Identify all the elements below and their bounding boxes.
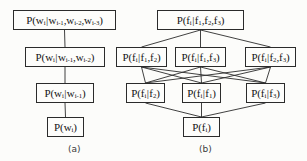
node-p-fi: P(fi)	[183, 117, 220, 137]
node-p-fi-given-f2: P(fi|f2)	[126, 83, 165, 103]
node-p-fi-given-f1-f3: P(fi|f1,f3)	[175, 47, 226, 67]
panel-caption-a: (a)	[68, 144, 81, 154]
node-p-fi-given-f1-f2: P(fi|f1,f2)	[116, 47, 167, 67]
edge-b1-to-b4	[142, 67, 146, 83]
panel-caption-b: (b)	[199, 144, 212, 154]
edge-b4-to-b7	[146, 103, 202, 117]
node-p-wi-given-wi1-wi2-wi3: P(wi|wi‑1,wi‑2,wi‑3)	[13, 10, 116, 30]
edge-b3-to-b6	[266, 67, 271, 83]
edge-b2-to-b5	[201, 67, 202, 83]
node-label: P(wi|wi‑1,wi‑2)	[36, 51, 95, 62]
node-p-wi-given-wi1: P(wi|wi‑1)	[36, 83, 94, 103]
node-label: P(fi|f2,f3)	[251, 51, 289, 62]
node-label: P(fi|f2)	[131, 87, 160, 98]
edge-b6-to-b7	[202, 103, 266, 117]
edge-b1-to-b6	[142, 67, 266, 83]
node-label: P(fi)	[192, 121, 211, 132]
node-label: P(fi|f1,f2)	[122, 51, 160, 62]
edge-a2-to-a3	[65, 103, 66, 117]
edge-b0-to-b1	[142, 30, 201, 47]
node-label: P(fi|f3)	[251, 87, 280, 98]
edge-a0-to-a1	[65, 30, 66, 47]
node-label: P(fi|f1,f2,f3)	[177, 14, 225, 25]
node-p-fi-given-f3: P(fi|f3)	[246, 83, 285, 103]
node-p-fi-given-f1: P(fi|f1)	[182, 83, 221, 103]
node-p-wi: P(wi)	[47, 117, 84, 137]
node-p-fi-given-f1-f2-f3: P(fi|f1,f2,f3)	[157, 10, 244, 30]
edge-b0-to-b3	[201, 30, 271, 47]
node-label: P(wi|wi‑1,wi‑2,wi‑3)	[26, 14, 103, 25]
node-p-wi-given-wi1-wi2: P(wi|wi‑1,wi‑2)	[25, 47, 105, 67]
node-label: P(wi|wi‑1)	[44, 87, 85, 98]
edge-b3-to-b4	[146, 67, 271, 83]
node-label: P(wi)	[54, 121, 77, 132]
node-label: P(fi|f1)	[187, 87, 216, 98]
node-label: P(fi|f1,f3)	[181, 51, 219, 62]
figure-language-model-backoff-lattices: P(wi|wi‑1,wi‑2,wi‑3)P(wi|wi‑1,wi‑2)P(wi|…	[0, 0, 307, 161]
node-p-fi-given-f2-f3: P(fi|f2,f3)	[245, 47, 296, 67]
